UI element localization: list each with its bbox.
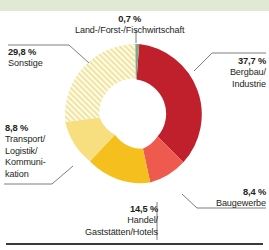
label-transport-percent: 8,8 % xyxy=(5,123,46,134)
bottom-rule xyxy=(6,243,263,245)
label-sonstige-text: Sonstige xyxy=(8,58,43,69)
label-baugewerbe-percent: 8,4 % xyxy=(178,187,266,198)
slice-bergbau-industrie[interactable] xyxy=(137,44,202,162)
label-handel-text-line2: Gaststätten/Hotels xyxy=(20,227,158,238)
top-color-band xyxy=(0,0,269,11)
label-land-text: Land-/Forst-/Fischwirtschaft xyxy=(75,25,184,36)
label-handel-gaststaetten-hotels: 14,5 % Handel/ Gaststätten/Hotels xyxy=(20,204,158,238)
label-handel-text-line1: Handel/ xyxy=(20,215,158,226)
label-transport-text-line1: Transport/ xyxy=(5,134,46,145)
slice-sonstige[interactable] xyxy=(65,44,136,122)
label-land-forst-fischwirtschaft: 0,7 % Land-/Forst-/Fischwirtschaft xyxy=(75,14,184,37)
label-handel-percent: 14,5 % xyxy=(20,204,158,215)
label-baugewerbe: 8,4 % Baugewerbe xyxy=(178,187,266,210)
label-transport-text-line3: Kommuni- xyxy=(5,157,46,168)
label-land-percent: 0,7 % xyxy=(75,14,184,25)
label-bergbau-industrie: 37,7 % Bergbau/ Industrie xyxy=(200,56,266,90)
label-bergbau-text-line2: Industrie xyxy=(200,79,266,90)
label-bergbau-percent: 37,7 % xyxy=(200,56,266,67)
label-transport-text-line2: Logistik/ xyxy=(5,146,46,157)
label-sonstige-percent: 29,8 % xyxy=(8,47,43,58)
donut-graphic xyxy=(63,42,209,188)
label-sonstige: 29,8 % Sonstige xyxy=(8,47,43,70)
label-transport-logistik-kommunikation: 8,8 % Transport/ Logistik/ Kommuni- kati… xyxy=(5,123,46,180)
label-bergbau-text-line1: Bergbau/ xyxy=(200,67,266,78)
label-transport-text-line4: kation xyxy=(5,169,46,180)
donut-svg xyxy=(63,42,209,188)
donut-chart-figure: 0,7 % Land-/Forst-/Fischwirtschaft 37,7 … xyxy=(0,0,269,250)
label-baugewerbe-text: Baugewerbe xyxy=(178,198,266,209)
